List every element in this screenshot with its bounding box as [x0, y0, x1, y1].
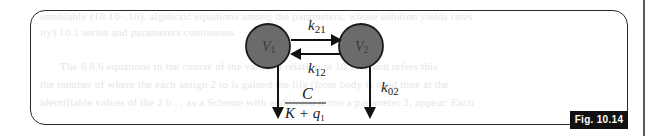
k21-label: k21: [308, 17, 326, 35]
elimination-arrowhead-v1: [272, 107, 284, 119]
k02-label: k02: [381, 79, 399, 97]
k02-arrowhead: [364, 107, 376, 119]
elimination-denominator: K + q1: [284, 105, 325, 123]
figure-number-badge: Fig. 10.14: [570, 111, 628, 129]
k12-label: k12: [308, 60, 326, 78]
compartment-diagram: V1 V2 k21 k12 k02 C K + q1: [0, 0, 654, 136]
elimination-numerator: C: [302, 85, 313, 102]
k12-arrowhead: [290, 48, 301, 60]
